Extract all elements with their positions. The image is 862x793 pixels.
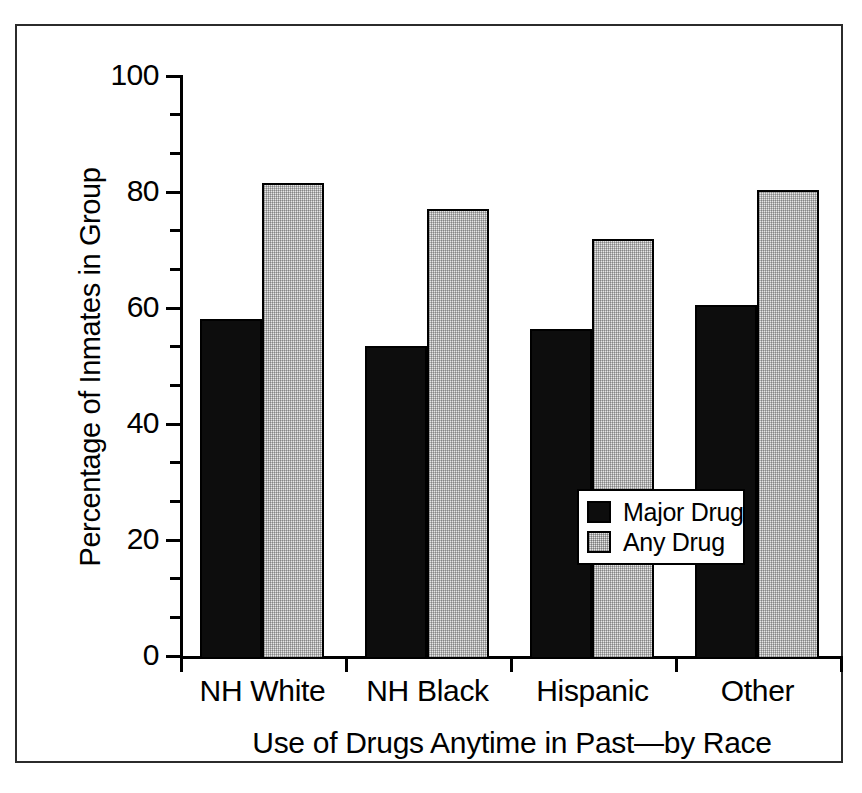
x-tick-boundary: [675, 656, 678, 672]
legend-swatch-major-drug-icon: [587, 501, 611, 523]
legend-label-major-drug: Major Drug: [623, 499, 744, 525]
chart-legend: Major Drug Any Drug: [577, 489, 745, 565]
x-axis-category-nh-white: NH White: [180, 674, 345, 708]
y-axis-line: [180, 75, 183, 659]
y-minor-tick: [170, 461, 183, 464]
figure-outer-frame: 100 80 60 40 20 0 Major Drug Any D: [15, 24, 843, 763]
bar-nh-white-major-drug: [200, 319, 262, 659]
x-axis-title: Use of Drugs Anytime in Past—by Race: [182, 726, 842, 760]
y-minor-tick: [170, 577, 183, 580]
x-tick-boundary: [180, 656, 183, 672]
y-minor-tick: [170, 616, 183, 619]
y-minor-tick: [170, 152, 183, 155]
y-tick-40: [166, 423, 183, 426]
y-tick-20: [166, 539, 183, 542]
legend-swatch-any-drug-icon: [587, 531, 611, 553]
x-axis-category-nh-black: NH Black: [345, 674, 510, 708]
y-minor-tick: [170, 113, 183, 116]
bar-other-major-drug: [695, 305, 757, 659]
legend-item-any-drug: Any Drug: [587, 527, 733, 557]
x-axis-category-hispanic: Hispanic: [510, 674, 675, 708]
y-minor-tick: [170, 345, 183, 348]
y-tick-60: [166, 307, 183, 310]
y-minor-tick: [170, 384, 183, 387]
figure-root: 100 80 60 40 20 0 Major Drug Any D: [0, 0, 862, 793]
y-minor-tick: [170, 500, 183, 503]
bar-hispanic-any-drug: [592, 239, 654, 659]
bar-nh-white-any-drug: [262, 183, 324, 659]
x-tick-boundary: [510, 656, 513, 672]
y-axis-title: Percentage of Inmates in Group: [75, 77, 105, 657]
bar-nh-black-major-drug: [365, 346, 427, 659]
y-minor-tick: [170, 268, 183, 271]
legend-label-any-drug: Any Drug: [623, 529, 725, 555]
x-axis-category-other: Other: [675, 674, 840, 708]
y-tick-100: [166, 75, 183, 78]
bar-other-any-drug: [757, 190, 819, 659]
x-tick-boundary: [345, 656, 348, 672]
x-tick-boundary: [840, 656, 843, 672]
bar-nh-black-any-drug: [427, 209, 489, 659]
y-minor-tick: [170, 229, 183, 232]
y-tick-80: [166, 191, 183, 194]
legend-item-major-drug: Major Drug: [587, 497, 733, 527]
